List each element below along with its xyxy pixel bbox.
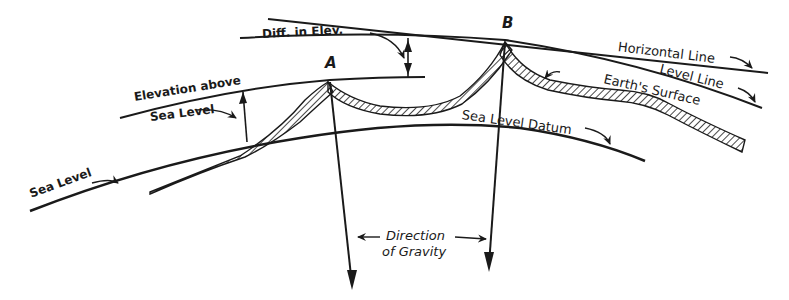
- gravity-line-a: [330, 82, 352, 285]
- direction-of-gravity-line2: of Gravity: [382, 245, 446, 258]
- point-a-label: A: [325, 56, 337, 71]
- surveying-diagram: A B Diff. in Elev. Horizontal Line Level…: [0, 0, 789, 300]
- point-b-label: B: [502, 16, 513, 31]
- sea-level-datum-line: [30, 125, 645, 211]
- direction-of-gravity-line1: Direction: [386, 229, 445, 242]
